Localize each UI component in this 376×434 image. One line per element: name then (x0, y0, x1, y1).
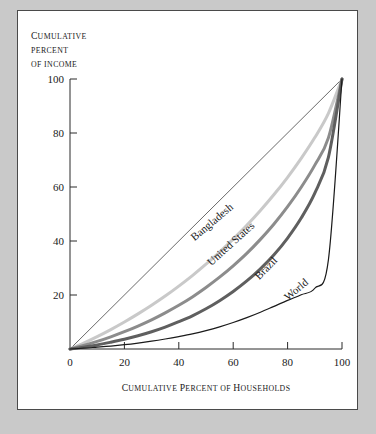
y-tick-label-100: 100 (48, 73, 65, 85)
y-tick-label-40: 40 (53, 235, 65, 247)
y-axis-tick-labels: 100 80 60 40 20 (48, 73, 65, 301)
y-tick-label-20: 20 (53, 289, 65, 301)
y-axis-title-rest: UMULATIVE (38, 32, 87, 41)
x-tick-label-0: 0 (67, 356, 73, 368)
x-tick-label-40: 40 (173, 356, 185, 368)
y-tick-label-80: 80 (53, 127, 65, 139)
lorenz-curves (70, 79, 342, 349)
x-tick-label-100: 100 (334, 356, 351, 368)
x-tick-label-20: 20 (119, 356, 130, 368)
x-tick-label-80: 80 (282, 356, 294, 368)
x-tick-label-60: 60 (228, 356, 240, 368)
x-axis-title-lead1: C (122, 382, 129, 393)
series-label-brazil: Brazil (252, 254, 279, 282)
svg-text:CUMULATIVE: CUMULATIVE (31, 30, 87, 41)
chart-panel: CUMULATIVE PERCENT OF INCOME 100 80 60 (17, 10, 358, 410)
y-axis-title: CUMULATIVE PERCENT OF INCOME (31, 30, 87, 69)
series-label-world: World (282, 276, 311, 303)
x-axis-title-rest1: UMULATIVE (128, 384, 177, 393)
x-axis-title-rest2: ERCENT OF (185, 384, 231, 393)
figure-root: CUMULATIVE PERCENT OF INCOME 100 80 60 (0, 0, 376, 434)
y-tick-label-60: 60 (53, 181, 65, 193)
lorenz-curve-chart: CUMULATIVE PERCENT OF INCOME 100 80 60 (18, 11, 359, 411)
y-axis-title-line2: PERCENT (31, 46, 68, 55)
y-axis-ticks (70, 79, 77, 295)
y-axis-title-line3: OF INCOME (31, 60, 77, 69)
svg-text:CUMULATIVE PERCENT OF HOUSEHOL: CUMULATIVE PERCENT OF HOUSEHOLDS (122, 382, 291, 393)
x-axis-tick-labels: 0 20 40 60 80 100 (67, 356, 351, 368)
x-axis-title-rest3: OUSEHOLDS (240, 384, 290, 393)
x-axis-title: CUMULATIVE PERCENT OF HOUSEHOLDS (122, 382, 291, 393)
y-axis-title-lead: C (31, 30, 38, 41)
x-axis-title-lead3: H (233, 382, 240, 393)
x-axis-ticks (124, 342, 342, 349)
